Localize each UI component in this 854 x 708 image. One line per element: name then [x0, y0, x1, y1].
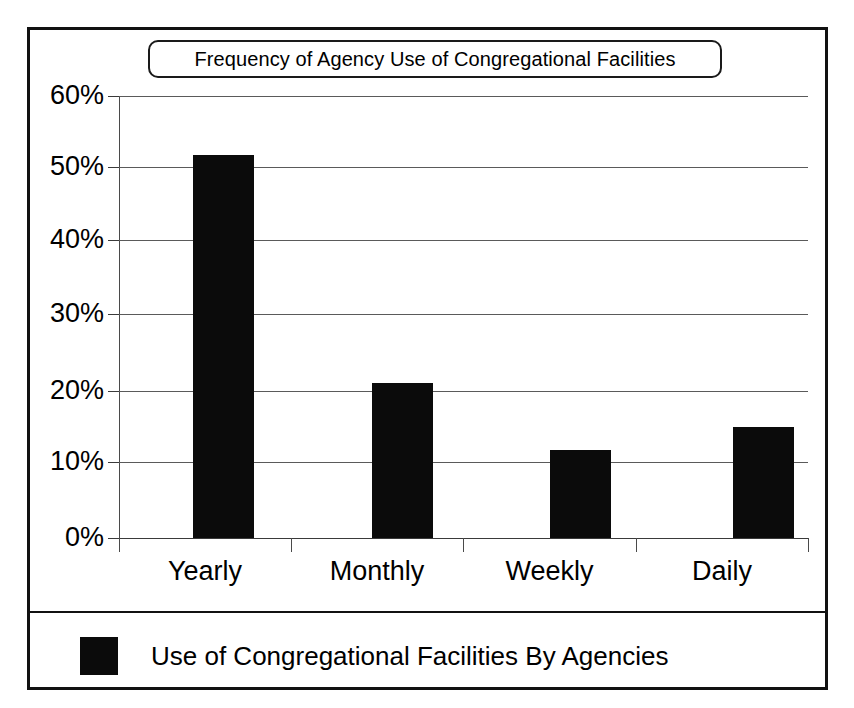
bar-monthly[interactable] [372, 383, 433, 538]
bar-yearly[interactable] [193, 155, 254, 538]
cat-tick-start [119, 538, 120, 552]
y-tick-mark-60 [108, 96, 119, 97]
y-tick-mark-30 [108, 314, 119, 315]
gridline-60 [119, 96, 808, 97]
chart-figure: Frequency of Agency Use of Congregationa… [0, 0, 854, 708]
chart-title: Frequency of Agency Use of Congregationa… [194, 48, 675, 71]
bar-weekly[interactable] [550, 450, 611, 538]
y-tick-label-60: 60% [50, 82, 104, 109]
x-label-weekly: Weekly [463, 558, 636, 585]
legend-label: Use of Congregational Facilities By Agen… [151, 641, 668, 672]
y-tick-mark-0 [108, 538, 119, 539]
y-tick-label-30: 30% [50, 300, 104, 327]
chart-title-box: Frequency of Agency Use of Congregationa… [148, 40, 722, 78]
x-label-daily: Daily [636, 558, 808, 585]
legend-swatch-icon [80, 637, 118, 675]
y-tick-mark-40 [108, 240, 119, 241]
cat-tick-1 [291, 538, 292, 552]
bar-daily[interactable] [733, 427, 794, 538]
y-axis-tick-labels: 60% 50% 40% 30% 20% 10% 0% [0, 0, 104, 708]
x-label-monthly: Monthly [291, 558, 463, 585]
y-tick-mark-50 [108, 167, 119, 168]
y-tick-label-0: 0% [65, 524, 104, 551]
legend-separator [27, 611, 828, 613]
y-tick-label-40: 40% [50, 226, 104, 253]
y-tick-mark-20 [108, 391, 119, 392]
chart-legend: Use of Congregational Facilities By Agen… [80, 632, 668, 680]
y-tick-label-50: 50% [50, 153, 104, 180]
x-label-yearly: Yearly [119, 558, 291, 585]
cat-tick-2 [463, 538, 464, 552]
y-tick-mark-10 [108, 462, 119, 463]
y-tick-label-20: 20% [50, 377, 104, 404]
cat-tick-3 [636, 538, 637, 552]
cat-tick-end [808, 538, 809, 552]
plot-area [119, 96, 808, 538]
y-tick-label-10: 10% [50, 448, 104, 475]
